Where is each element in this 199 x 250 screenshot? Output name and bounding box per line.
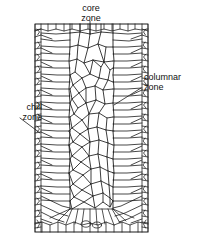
chill-zone-label: chillzone — [2, 102, 42, 122]
core-zone-label-line2: zone — [81, 13, 101, 23]
ingot-grain-structure-figure: corezone columnarzone chillzone — [0, 0, 199, 250]
columnar-zone-label: columnarzone — [144, 72, 199, 92]
columnar-zone-label-line1: columnar — [144, 72, 181, 82]
core-zone-label-line1: core — [82, 3, 100, 13]
chill-zone-label-line1: chill — [26, 102, 42, 112]
columnar-zone-label-line2: zone — [144, 82, 164, 92]
chill-zone-label-line2: zone — [22, 112, 42, 122]
core-zone-label: corezone — [62, 3, 120, 23]
grain-structure-drawing — [0, 0, 199, 250]
